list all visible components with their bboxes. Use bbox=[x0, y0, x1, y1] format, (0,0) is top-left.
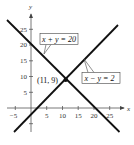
x-axis-label: x bbox=[126, 105, 131, 113]
x-tick-label: 5 bbox=[45, 112, 49, 120]
y-tick-label: 25 bbox=[20, 26, 28, 34]
y-tick-label: 20 bbox=[20, 41, 28, 49]
y-tick-label: 15 bbox=[20, 57, 28, 65]
x-tick-label: 20 bbox=[91, 112, 99, 120]
y-axis-label: y bbox=[28, 3, 33, 11]
x-tick-label: 15 bbox=[75, 112, 83, 120]
callout-x-plus-y-eq-20: x + y = 20 bbox=[40, 34, 78, 55]
callout-label: x + y = 20 bbox=[41, 35, 76, 44]
intersection-point bbox=[63, 78, 67, 82]
x-tick-label: 10 bbox=[59, 112, 67, 120]
system-of-equations-chart: x y −5 5 10 15 20 25 25 20 15 10 5 bbox=[0, 0, 134, 145]
y-tick-label: 10 bbox=[20, 73, 28, 81]
x-tick-labels: −5 5 10 15 20 25 bbox=[10, 112, 114, 120]
callout-x-minus-y-eq-2: x − y = 2 bbox=[82, 59, 120, 84]
x-tick-label: −5 bbox=[10, 112, 18, 120]
y-tick-label: 5 bbox=[24, 89, 28, 97]
intersection-label: (11, 9) bbox=[37, 76, 58, 85]
callout-label: x − y = 2 bbox=[84, 74, 115, 83]
